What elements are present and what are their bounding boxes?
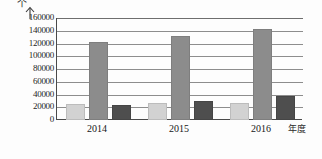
x-axis-tick-label-2016: 2016 [241,123,281,135]
bar-2014-series-1 [66,104,85,120]
y-axis-tick-label: 120000 [2,39,54,48]
x-axis-title: 年度 [288,124,306,135]
bar-2015-series-3 [194,101,213,120]
y-axis-tick-label: 100000 [2,51,54,60]
y-axis-tick-label: 0 [2,115,54,124]
y-axis-tick-label: 80000 [2,64,54,73]
bar-2016-series-2 [253,29,272,120]
y-axis-tick-labels: 0200004000060000800001000001200001400001… [0,18,54,120]
bar-2014-series-2 [89,42,108,121]
y-axis-tick-label: 140000 [2,26,54,35]
x-axis-tick-labels: 201420152016 [56,123,302,139]
y-axis-tick-label: 60000 [2,77,54,86]
bar-2014-series-3 [112,105,131,120]
bar-2015-series-2 [171,36,190,120]
bars-layer [56,18,302,120]
x-axis-tick-label-2015: 2015 [159,123,199,135]
bar-2016-series-1 [230,103,249,120]
bar-chart-figure: 个 02000040000600008000010000012000014000… [0,0,322,159]
y-axis-tick-label: 160000 [2,13,54,22]
y-axis-tick-label: 20000 [2,102,54,111]
y-axis-tick-label: 40000 [2,90,54,99]
bar-2015-series-1 [148,103,167,120]
bar-2016-series-3 [276,96,295,120]
x-axis-tick-label-2014: 2014 [77,123,117,135]
